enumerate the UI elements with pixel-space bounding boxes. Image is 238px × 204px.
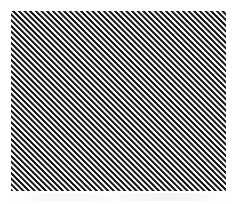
- diagonal-hatch-swatch: [11, 11, 226, 191]
- screenshot-canvas: [0, 0, 238, 204]
- compression-artifact-band: [8, 193, 230, 201]
